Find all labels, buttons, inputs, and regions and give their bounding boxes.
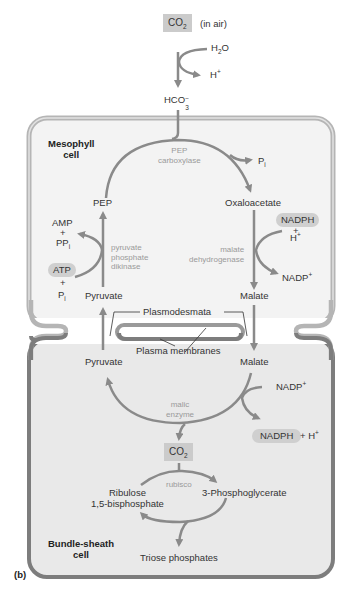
malate-dehydrogenase-label: malate dehydrogenase xyxy=(189,245,244,264)
ppdk-line3: dikinase xyxy=(111,262,148,272)
malic-enzyme-line1: malic xyxy=(166,400,194,410)
nadp-text: NADP xyxy=(276,381,302,392)
nadph-bundle-pill: NADPH xyxy=(252,429,301,443)
bicarbonate-label: HCO−3 xyxy=(164,95,191,106)
ppi-pp: PP xyxy=(56,237,69,248)
bundle-sheath-title-line2: cell xyxy=(48,549,114,560)
mesophyll-title-line1: Mesophyll xyxy=(48,138,94,149)
pi-sub: i xyxy=(64,295,65,302)
pi-released-label: Pi xyxy=(258,156,266,167)
pep-label: PEP xyxy=(93,198,112,209)
co2-subscript: 2 xyxy=(184,452,188,459)
h-sup: + xyxy=(297,231,301,238)
h2o-o: O xyxy=(222,42,229,53)
h2o-h: H xyxy=(211,42,218,53)
center-membrane-capsule xyxy=(117,325,243,339)
pep-carboxylase-label: PEP carboxylase xyxy=(158,146,201,165)
atp-pill: ATP xyxy=(48,263,76,277)
co2-air-box: CO2 xyxy=(163,14,192,32)
malate-dehydrogenase-line1: malate xyxy=(189,245,244,255)
pyruvate-mesophyll-label: Pyruvate xyxy=(85,291,123,302)
nadp-text: NADP xyxy=(282,272,308,283)
plus-atp-pi: + xyxy=(60,278,66,289)
h-plus-bundle-label: + H+ xyxy=(300,431,319,442)
nadp-plus-bundle-label: NADP+ xyxy=(276,382,306,393)
h-text: H xyxy=(290,232,297,243)
bundle-sheath-title-line1: Bundle-sheath xyxy=(48,538,114,549)
plasmodesmata-label: Plasmodesmata xyxy=(143,307,211,318)
ribulose-line2: 1,5-bisphosphate xyxy=(91,499,164,510)
nadp-sup: + xyxy=(308,271,312,278)
h-plus-top-label: H+ xyxy=(210,70,221,81)
nadp-sup: + xyxy=(302,380,306,387)
ppdk-line2: phosphate xyxy=(111,253,148,263)
malate-dehydrogenase-line2: dehydrogenase xyxy=(189,255,244,265)
figure-label: (b) xyxy=(14,569,26,580)
plus-h-text: + H xyxy=(300,430,315,441)
h-sup: + xyxy=(315,429,319,436)
pi-sub: i xyxy=(264,161,265,168)
ppdk-label: pyruvate phosphate dikinase xyxy=(111,243,148,272)
nadp-plus-mesophyll-label: NADP+ xyxy=(282,273,312,284)
ribulose-bisphosphate-label: Ribulose 1,5-bisphosphate xyxy=(91,488,164,510)
pi-consumed-label: Pi xyxy=(58,290,66,301)
malate-mesophyll-label: Malate xyxy=(240,291,269,302)
oxaloacetate-label: Oxaloacetate xyxy=(225,198,281,209)
co2-text: CO xyxy=(169,446,184,457)
mesophyll-title-line2: cell xyxy=(48,149,94,160)
h-text: H xyxy=(210,69,217,80)
malate-bundle-label: Malate xyxy=(240,357,269,368)
h-sup: + xyxy=(217,68,221,75)
co2-bundle-box: CO2 xyxy=(164,443,193,461)
malic-enzyme-label: malic enzyme xyxy=(166,400,194,419)
hco3-text: HCO xyxy=(164,94,185,105)
mesophyll-cell-title: Mesophyll cell xyxy=(48,138,94,161)
ppi-sub: i xyxy=(69,243,70,250)
rubisco-label: rubisco xyxy=(166,480,192,490)
h2o-label: H2O xyxy=(211,43,229,54)
co2-text: CO xyxy=(168,17,183,28)
malic-enzyme-line2: enzyme xyxy=(166,410,194,420)
bundle-sheath-cell-title: Bundle-sheath cell xyxy=(48,538,114,561)
c4-pathway-diagram: CO2 (in air) H2O H+ HCO−3 Mesophyll cell… xyxy=(0,0,352,615)
ppi-label: PPi xyxy=(56,238,70,249)
h-plus-mesophyll-label: H+ xyxy=(290,233,301,244)
pep-carboxylase-line1: PEP xyxy=(158,146,201,156)
triose-phosphates-label: Triose phosphates xyxy=(140,553,218,564)
plasma-membranes-label: Plasma membranes xyxy=(136,346,220,357)
co2-subscript: 2 xyxy=(183,23,187,30)
pep-carboxylase-line2: carboxylase xyxy=(158,156,201,166)
ppdk-line1: pyruvate xyxy=(111,243,148,253)
pyruvate-bundle-label: Pyruvate xyxy=(85,357,123,368)
phosphoglycerate-label: 3-Phosphoglycerate xyxy=(202,488,287,499)
in-air-label: (in air) xyxy=(200,19,227,30)
